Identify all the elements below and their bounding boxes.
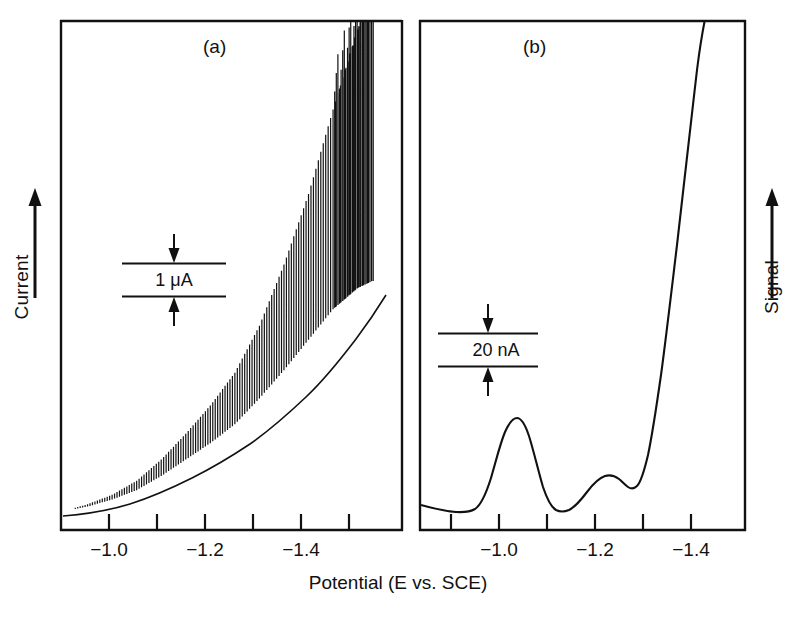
panel-b-trace <box>421 5 708 512</box>
panel-a-trace <box>63 12 386 516</box>
panel-a-oscillation-spikes <box>75 12 373 509</box>
plot-area <box>0 0 796 618</box>
panel-a-frame <box>60 20 403 531</box>
panel-b-xticks <box>451 514 691 530</box>
panel-a-xticks <box>109 514 349 530</box>
x-axis-title: Potential (E vs. SCE) <box>0 572 796 594</box>
panel-b-frame <box>419 20 746 531</box>
figure-container: Current Signal (a) (b) 1 μA 20 nA <box>0 0 796 618</box>
panel-divider <box>402 20 420 531</box>
